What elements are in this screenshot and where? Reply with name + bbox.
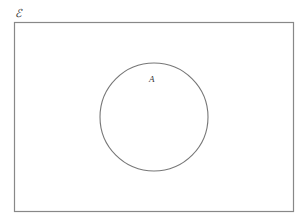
universal-set-rectangle	[15, 23, 294, 212]
venn-diagram: ℰ A	[0, 0, 308, 221]
universal-set-label: ℰ	[15, 7, 23, 19]
set-a-label: A	[148, 74, 155, 84]
